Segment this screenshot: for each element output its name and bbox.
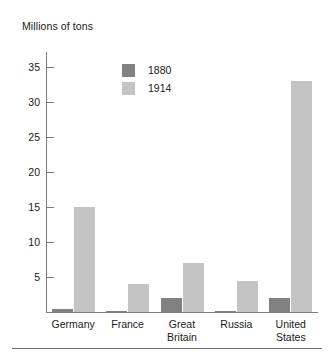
- y-tick-label: 10: [0, 237, 40, 248]
- legend-swatch-1880: [122, 64, 135, 77]
- y-tick-label-text: 35: [4, 62, 40, 73]
- y-tick-mark: [47, 137, 54, 138]
- bar-russia-1880: [215, 311, 236, 312]
- y-tick-label: 30: [0, 97, 40, 108]
- legend-item-1880: 1880: [122, 61, 171, 79]
- y-tick-label: 25: [0, 132, 40, 143]
- x-label-germany: Germany: [46, 318, 100, 331]
- y-tick-label: 35: [0, 62, 40, 73]
- x-label-united-states: United States: [264, 318, 318, 343]
- y-tick-label-text: 20: [4, 167, 40, 178]
- legend-label-1880: 1880: [148, 64, 171, 76]
- legend-swatch-1914: [122, 82, 135, 95]
- legend-item-1914: 1914: [122, 79, 171, 97]
- y-tick-label: 15: [0, 202, 40, 213]
- y-tick-label: 20: [0, 167, 40, 178]
- y-tick-mark: [47, 242, 54, 243]
- y-tick-label-text: 10: [4, 237, 40, 248]
- y-tick-label-text: 5: [4, 272, 40, 283]
- bar-united-states-1914: [291, 81, 312, 312]
- bar-germany-1880: [52, 309, 73, 313]
- bottom-divider: [12, 348, 322, 349]
- bar-russia-1914: [237, 281, 258, 313]
- y-tick-mark: [47, 172, 54, 173]
- bar-france-1880: [106, 311, 127, 312]
- bar-united-states-1880: [269, 298, 290, 312]
- y-tick-label-text: 30: [4, 97, 40, 108]
- y-tick-mark: [47, 277, 54, 278]
- y-tick-label: 5: [0, 272, 40, 283]
- legend-label-1914: 1914: [148, 82, 171, 94]
- y-tick-label-text: 15: [4, 202, 40, 213]
- x-label-france: France: [100, 318, 154, 331]
- chart-title: Millions of tons: [22, 20, 93, 32]
- y-tick-mark: [47, 207, 54, 208]
- bar-great-britain-1880: [161, 298, 182, 312]
- y-axis-line: [46, 52, 47, 313]
- x-label-great-britain: Great Britain: [155, 318, 209, 343]
- x-axis-line: [46, 312, 318, 313]
- x-label-russia: Russia: [209, 318, 263, 331]
- chart-figure: Millions of tons 5101520253035 GermanyFr…: [0, 0, 334, 360]
- bar-france-1914: [128, 284, 149, 312]
- bar-germany-1914: [74, 207, 95, 312]
- y-tick-mark: [47, 102, 54, 103]
- chart-legend: 18801914: [122, 61, 171, 97]
- bar-great-britain-1914: [183, 263, 204, 312]
- y-tick-mark: [47, 67, 54, 68]
- y-tick-label-text: 25: [4, 132, 40, 143]
